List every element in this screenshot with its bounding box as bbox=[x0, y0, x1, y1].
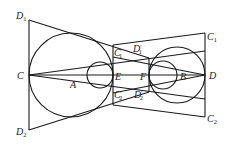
line-D2-D2p bbox=[29, 92, 149, 130]
label-D1: D1 bbox=[15, 10, 26, 22]
line-C2-C2p bbox=[113, 105, 205, 117]
label-D1-prime: D′1 bbox=[132, 43, 142, 55]
label-D2: D2 bbox=[15, 126, 26, 138]
line-D-lower bbox=[113, 75, 205, 93]
label-D2-prime: D′2 bbox=[133, 89, 143, 101]
label-C: C bbox=[17, 70, 24, 81]
line-C1-C1p bbox=[113, 33, 205, 45]
label-C2: C2 bbox=[207, 113, 217, 125]
label-E: E bbox=[114, 71, 121, 82]
label-D: D bbox=[208, 70, 217, 81]
label-C1: C1 bbox=[207, 31, 217, 43]
line-D1-D1p bbox=[29, 20, 149, 58]
label-C2-prime: C′2 bbox=[114, 89, 123, 101]
line-D-upper bbox=[113, 57, 205, 75]
geometry-diagram: C D A B E F D1 D2 C1 C2 C′1 C′2 D′1 D′2 bbox=[0, 0, 230, 149]
label-B: B bbox=[180, 71, 186, 82]
label-F: F bbox=[139, 71, 147, 82]
label-C1-prime: C′1 bbox=[114, 47, 123, 59]
label-A: A bbox=[69, 79, 77, 90]
